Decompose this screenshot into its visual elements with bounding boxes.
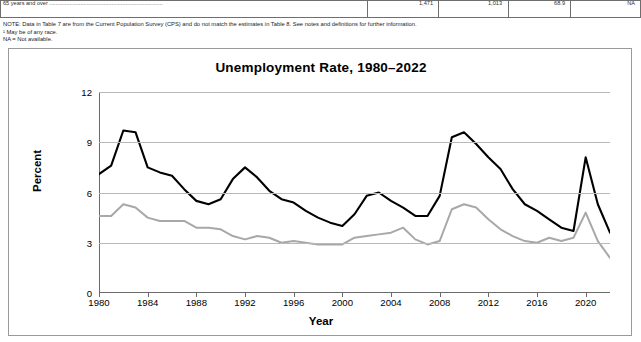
table-notes: NOTE: Data in Table 7 are from the Curre… bbox=[3, 21, 563, 44]
series-line-south-dakota bbox=[99, 204, 610, 258]
table-cell-value: 68.9 bbox=[508, 0, 565, 6]
table-bottom-rule bbox=[0, 17, 641, 18]
x-axis-tick-mark bbox=[391, 293, 392, 297]
x-axis-tick-label: 2016 bbox=[526, 297, 547, 308]
y-axis-tick-label: 3 bbox=[87, 237, 92, 248]
y-axis-tick-label: 9 bbox=[87, 137, 92, 148]
note-line: NOTE: Data in Table 7 are from the Curre… bbox=[3, 21, 563, 29]
x-axis-tick-label: 1988 bbox=[186, 297, 207, 308]
gridline bbox=[99, 243, 610, 244]
table-remnant: 65 years and over ......................… bbox=[0, 0, 641, 18]
gridline bbox=[99, 142, 610, 143]
chart-title: Unemployment Rate, 1980–2022 bbox=[9, 60, 633, 75]
table-row: 65 years and over ......................… bbox=[0, 0, 641, 17]
note-line: NA = Not available. bbox=[3, 36, 563, 44]
y-axis-tick-label: 6 bbox=[87, 187, 92, 198]
x-axis-tick-mark bbox=[245, 293, 246, 297]
x-axis-label: Year bbox=[9, 315, 633, 327]
x-axis-tick-mark bbox=[294, 293, 295, 297]
table-row-label: 65 years and over ......................… bbox=[3, 0, 163, 6]
table-cell-value: NA bbox=[570, 0, 635, 6]
x-axis-tick-mark bbox=[148, 293, 149, 297]
x-axis-tick-mark bbox=[488, 293, 489, 297]
x-axis-tick-label: 2020 bbox=[575, 297, 596, 308]
x-axis-tick-mark bbox=[99, 293, 100, 297]
x-axis-tick-label: 2000 bbox=[332, 297, 353, 308]
x-axis-tick-label: 1996 bbox=[283, 297, 304, 308]
series-line-united-states bbox=[99, 131, 610, 233]
x-axis-tick-mark bbox=[196, 293, 197, 297]
x-axis-tick-label: 1992 bbox=[234, 297, 255, 308]
x-axis-tick-mark bbox=[440, 293, 441, 297]
x-axis-tick-label: 2008 bbox=[429, 297, 450, 308]
x-axis-tick-mark bbox=[342, 293, 343, 297]
note-line: ¹ May be of any race. bbox=[3, 29, 563, 37]
x-axis-tick-label: 2012 bbox=[478, 297, 499, 308]
table-cell-value: 1,471 bbox=[367, 0, 433, 6]
x-axis-tick-mark bbox=[586, 293, 587, 297]
table-cell-value: 1,013 bbox=[438, 0, 502, 6]
x-axis-tick-mark bbox=[537, 293, 538, 297]
gridline bbox=[99, 193, 610, 194]
y-axis-label: Percent bbox=[31, 150, 43, 192]
plot-top-border bbox=[99, 92, 610, 93]
x-axis-tick-label: 1984 bbox=[137, 297, 158, 308]
y-axis-tick-label: 12 bbox=[81, 87, 92, 98]
chart-container: Unemployment Rate, 1980–2022 Percent Yea… bbox=[8, 48, 632, 336]
x-axis-tick-label: 1980 bbox=[88, 297, 109, 308]
x-axis-tick-label: 2004 bbox=[380, 297, 401, 308]
plot-area: 0369121980198419881992199620002004200820… bbox=[99, 92, 610, 293]
